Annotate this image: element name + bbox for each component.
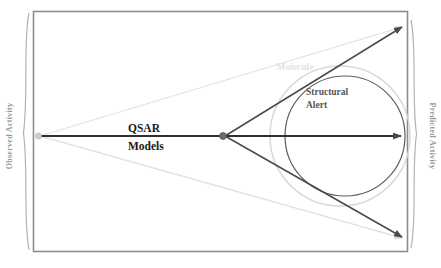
predicted-activity-label: Predicted Activity bbox=[428, 103, 437, 170]
dark-ray-lower bbox=[225, 136, 402, 237]
structural-alert-label-line2: Alert bbox=[306, 100, 328, 110]
right-brace bbox=[411, 20, 417, 248]
diagram-frame bbox=[34, 12, 408, 252]
observed-activity-label: Observed Activity bbox=[5, 103, 14, 170]
mid-vertex-node bbox=[220, 133, 227, 140]
molecule-label: Molecule bbox=[277, 62, 314, 72]
qsar-diagram-svg: Molecule Structural Alert QSAR Models Ob… bbox=[0, 0, 441, 268]
left-brace bbox=[24, 13, 30, 250]
light-ray-lower bbox=[40, 136, 402, 238]
qsar-diagram-container: Molecule Structural Alert QSAR Models Ob… bbox=[0, 0, 441, 268]
dark-ray-upper bbox=[225, 27, 402, 136]
qsar-label-line2: Models bbox=[128, 140, 164, 152]
light-ray-upper bbox=[40, 27, 402, 136]
structural-alert-label-line1: Structural bbox=[306, 87, 349, 97]
left-vertex-node bbox=[36, 133, 42, 139]
qsar-label-line1: QSAR bbox=[128, 122, 161, 134]
